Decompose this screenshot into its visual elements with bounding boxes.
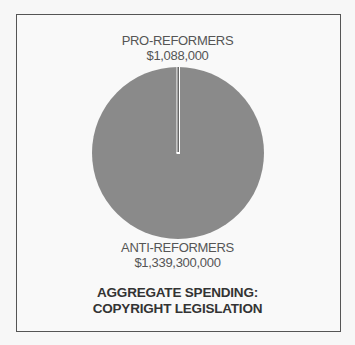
anti-reformers-label: ANTI-REFORMERS $1,339,300,000	[0, 240, 355, 270]
chart-title-line1: AGGREGATE SPENDING:	[0, 285, 355, 301]
chart-title-line2: COPYRIGHT LEGISLATION	[0, 301, 355, 317]
anti-reformers-name: ANTI-REFORMERS	[0, 240, 355, 255]
anti-reformers-amount: $1,339,300,000	[0, 255, 355, 270]
chart-title: AGGREGATE SPENDING: COPYRIGHT LEGISLATIO…	[0, 285, 355, 317]
pie-slice-pro-reformers	[177, 67, 181, 154]
